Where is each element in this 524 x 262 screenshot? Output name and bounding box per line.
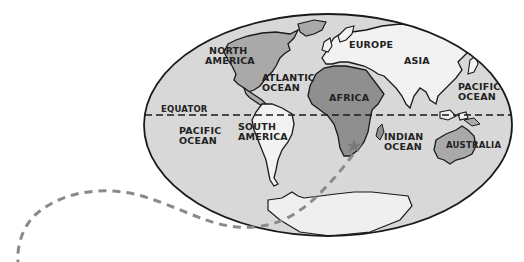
label-asia: ASIA bbox=[404, 55, 430, 66]
label-north-america-2: AMERICA bbox=[205, 55, 255, 66]
world-map: NORTH AMERICA ATLANTIC OCEAN EUROPE ASIA… bbox=[0, 0, 524, 262]
label-equator: EQUATOR bbox=[161, 104, 208, 114]
label-indian-2: OCEAN bbox=[384, 141, 422, 152]
label-pacific-west-2: OCEAN bbox=[179, 135, 217, 146]
label-pacific-east-2: OCEAN bbox=[458, 91, 496, 102]
label-europe: EUROPE bbox=[349, 39, 393, 50]
label-australia: AUSTRALIA bbox=[446, 140, 501, 150]
label-south-america-2: AMERICA bbox=[238, 131, 288, 142]
label-atlantic-2: OCEAN bbox=[262, 82, 300, 93]
label-africa: AFRICA bbox=[329, 92, 370, 103]
